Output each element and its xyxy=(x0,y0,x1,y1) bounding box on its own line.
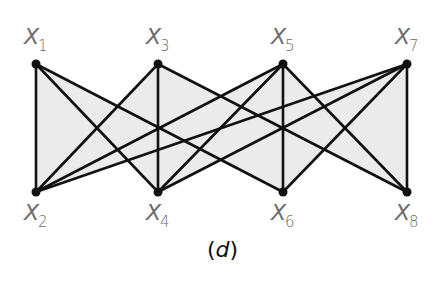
node-x4 xyxy=(154,188,163,197)
node-label-x5: X5 xyxy=(271,26,295,52)
node-label-x3: X3 xyxy=(146,26,170,52)
node-x2 xyxy=(32,188,41,197)
caption-letter: d xyxy=(216,237,230,262)
node-x6 xyxy=(279,188,288,197)
node-label-x4: X4 xyxy=(146,202,170,228)
node-x8 xyxy=(403,188,412,197)
node-x7 xyxy=(403,60,412,69)
node-label-x8: X8 xyxy=(395,202,419,228)
figure-caption: (d) xyxy=(207,237,238,262)
node-x5 xyxy=(279,60,288,69)
node-label-x2: X2 xyxy=(24,202,48,228)
node-label-x1: X1 xyxy=(24,26,48,52)
node-label-x7: X7 xyxy=(395,26,419,52)
node-x1 xyxy=(32,60,41,69)
node-x3 xyxy=(154,60,163,69)
node-label-x6: X6 xyxy=(271,202,295,228)
